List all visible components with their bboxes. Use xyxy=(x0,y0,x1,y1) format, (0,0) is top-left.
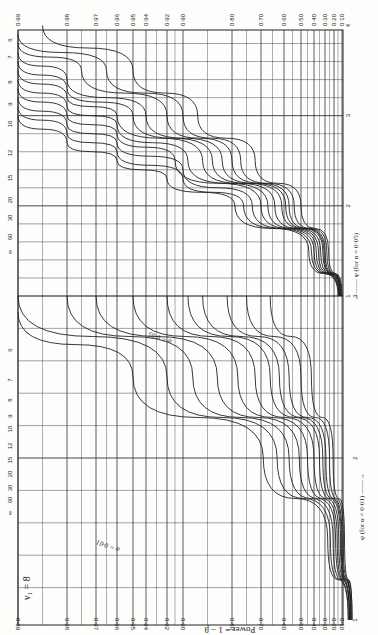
power-axis-label: Power = 1 − β xyxy=(204,625,256,635)
svg-text:0·40: 0·40 xyxy=(311,13,317,26)
svg-text:0·30: 0·30 xyxy=(322,13,328,26)
nu1-label: ν₁ = 8 xyxy=(21,576,32,600)
nu2-labels: 66778899101012121515202030306060∞∞ xyxy=(7,38,13,515)
svg-text:15: 15 xyxy=(7,174,13,181)
svg-text:30: 30 xyxy=(7,214,13,221)
svg-text:6: 6 xyxy=(7,348,13,352)
svg-text:0·96: 0·96 xyxy=(114,618,120,631)
svg-text:8: 8 xyxy=(7,398,13,402)
curve-230 xyxy=(18,98,339,296)
svg-text:10: 10 xyxy=(7,120,13,127)
svg-text:0·97: 0·97 xyxy=(93,618,99,631)
svg-text:4: 4 xyxy=(345,23,351,27)
svg-text:0·94: 0·94 xyxy=(143,13,149,26)
curve-260 xyxy=(18,107,339,296)
svg-text:∞: ∞ xyxy=(7,250,13,254)
svg-text:12: 12 xyxy=(7,442,13,449)
phi-axis-label-alpha05: ←—— φ (for α = 0·05) xyxy=(352,232,360,300)
alpha05-tag: α = 0·05 xyxy=(147,330,173,346)
svg-text:15: 15 xyxy=(7,456,13,463)
svg-text:7: 7 xyxy=(7,378,13,382)
curve-210 xyxy=(18,62,340,296)
svg-text:0·60: 0·60 xyxy=(281,13,287,26)
svg-text:0·90: 0·90 xyxy=(180,618,186,631)
svg-text:2: 2 xyxy=(352,456,358,460)
svg-text:0·70: 0·70 xyxy=(258,618,264,631)
svg-text:0·92: 0·92 xyxy=(164,13,170,26)
svg-text:0·10: 0·10 xyxy=(339,618,345,631)
svg-text:0·92: 0·92 xyxy=(164,618,170,631)
svg-text:10: 10 xyxy=(7,425,13,432)
svg-text:0·80: 0·80 xyxy=(229,13,235,26)
svg-text:20: 20 xyxy=(7,196,13,203)
svg-text:0·99: 0·99 xyxy=(15,13,21,26)
curve-27 xyxy=(18,35,341,297)
svg-text:6: 6 xyxy=(7,38,13,42)
curve-26 xyxy=(43,26,343,297)
svg-text:0·40: 0·40 xyxy=(311,618,317,631)
svg-text:3: 3 xyxy=(345,113,351,117)
svg-text:0·70: 0·70 xyxy=(258,13,264,26)
svg-text:0·20: 0·20 xyxy=(331,618,337,631)
svg-text:0·90: 0·90 xyxy=(180,13,186,26)
svg-text:0·94: 0·94 xyxy=(143,618,149,631)
svg-text:60: 60 xyxy=(7,496,13,503)
svg-text:0·50: 0·50 xyxy=(298,13,304,26)
svg-text:0·98: 0·98 xyxy=(64,618,70,631)
svg-text:9: 9 xyxy=(7,102,13,106)
svg-text:12: 12 xyxy=(7,149,13,156)
svg-text:30: 30 xyxy=(7,484,13,491)
power-ticks-bottom: 0·990·980·970·960·950·940·920·900·800·70… xyxy=(15,618,345,631)
svg-text:2: 2 xyxy=(345,204,351,208)
svg-text:0·95: 0·95 xyxy=(130,618,136,631)
power-ticks-top: 0·990·980·970·960·950·940·920·900·800·70… xyxy=(15,13,345,26)
svg-text:0·96: 0·96 xyxy=(114,13,120,26)
power-chart: 0·990·980·970·960·950·940·920·900·800·70… xyxy=(0,0,378,635)
svg-text:9: 9 xyxy=(7,414,13,418)
curve-29 xyxy=(18,53,340,297)
svg-text:20: 20 xyxy=(7,470,13,477)
svg-text:0·30: 0·30 xyxy=(322,618,328,631)
svg-text:60: 60 xyxy=(7,233,13,240)
svg-text:1: 1 xyxy=(345,294,351,298)
svg-text:0·60: 0·60 xyxy=(281,618,287,631)
svg-text:0·98: 0·98 xyxy=(64,13,70,26)
svg-text:∞: ∞ xyxy=(7,511,13,515)
svg-text:7: 7 xyxy=(7,55,13,59)
svg-text:0·50: 0·50 xyxy=(298,618,304,631)
svg-text:1: 1 xyxy=(352,618,358,622)
svg-text:0·97: 0·97 xyxy=(93,13,99,26)
phi-axis-label-alpha01: φ (for α = 0·01) ——→ xyxy=(358,473,366,540)
svg-text:0·99: 0·99 xyxy=(15,618,21,631)
phi-ticks: 1234123 xyxy=(345,23,358,622)
svg-text:0·20: 0·20 xyxy=(331,13,337,26)
svg-text:0·95: 0·95 xyxy=(130,13,136,26)
svg-text:8: 8 xyxy=(7,80,13,84)
